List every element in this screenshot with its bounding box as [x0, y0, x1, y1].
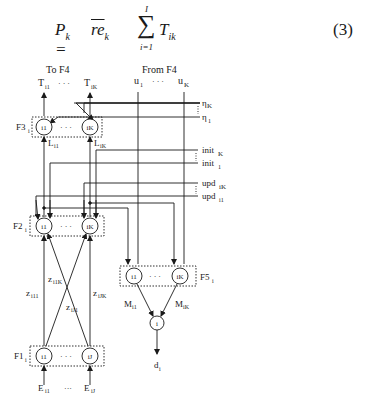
label-initK: init [202, 145, 215, 155]
svg-text:· · ·: · · · [58, 79, 70, 88]
svg-text:i1: i1 [41, 353, 47, 361]
svg-text:iK: iK [183, 304, 190, 310]
label-F5: F5 [200, 272, 210, 282]
svg-text:iK: iK [87, 223, 94, 231]
svg-text:i: i [156, 320, 158, 328]
svg-text:i1: i1 [41, 124, 47, 132]
svg-text:i: i [212, 278, 214, 284]
svg-text:iK: iK [91, 84, 98, 90]
label-upd1: upd [202, 191, 216, 201]
svg-text:iJK: iJK [98, 293, 107, 299]
svg-text:1: 1 [140, 82, 143, 88]
svg-text:· · ·: · · · [60, 352, 72, 361]
svg-text:· · ·: · · · [60, 222, 72, 231]
svg-text:1: 1 [208, 118, 211, 124]
svg-text:· · ·: · · · [149, 272, 161, 281]
svg-text:i: i [28, 128, 30, 134]
z-i1K [46, 234, 86, 346]
label-M-i1: M [124, 299, 132, 309]
label-F3: F3 [16, 122, 26, 132]
svg-text:1: 1 [218, 164, 221, 170]
svg-text:i1: i1 [54, 143, 59, 149]
label-from-F4: From F4 [142, 64, 177, 75]
svg-text:iJ: iJ [91, 388, 96, 394]
svg-text:iK: iK [177, 273, 184, 281]
svg-text:K: K [218, 150, 223, 158]
label-z-iJK: z [93, 288, 97, 298]
label-T: T [38, 77, 44, 88]
label-F1: F1 [14, 351, 24, 361]
label-L-i1: L [48, 138, 54, 148]
svg-text:i1: i1 [131, 273, 137, 281]
label-T-iK: T [84, 77, 90, 88]
arrow-M-i1 [137, 284, 153, 316]
label-E-i1: E [38, 383, 44, 393]
svg-text:i1: i1 [219, 197, 224, 203]
label-z-i11: z [26, 288, 30, 298]
svg-text:· · ·: · · · [152, 77, 164, 86]
label-M-iK: M [175, 299, 183, 309]
label-eta1: η [202, 112, 207, 122]
svg-text:···: ··· [64, 384, 72, 393]
svg-text:i1: i1 [45, 388, 50, 394]
svg-text:iJ1: iJ1 [71, 307, 78, 313]
label-F2: F2 [13, 221, 23, 231]
svg-text:iJ: iJ [88, 353, 93, 361]
svg-text:i11: i11 [31, 293, 38, 299]
label-L-iK: L [94, 138, 100, 148]
line-updK [84, 183, 198, 216]
label-to-F4: To F4 [46, 64, 69, 75]
line-F2-to-F5-iK [90, 203, 174, 264]
svg-text:K: K [184, 81, 189, 89]
arrow-eta1 [50, 117, 200, 123]
label-uK: u [178, 75, 183, 86]
svg-text:iK: iK [100, 143, 107, 149]
label-z-i1K: z [48, 274, 52, 284]
label-E-iJ: E [84, 383, 90, 393]
svg-text:i1: i1 [132, 304, 137, 310]
label-z-iJ1: z [66, 302, 70, 312]
svg-text:i1: i1 [45, 84, 50, 90]
label-u1: u [134, 75, 139, 86]
svg-text:i1K: i1K [53, 279, 63, 285]
svg-text:i1: i1 [41, 223, 47, 231]
svg-text:iK: iK [219, 183, 226, 191]
svg-text:iK: iK [87, 124, 94, 132]
svg-text:i: i [159, 366, 161, 372]
svg-text:K: K [207, 102, 212, 110]
z-iJ1 [48, 234, 88, 346]
svg-text:i: i [25, 227, 27, 233]
line-etaK [84, 103, 200, 113]
label-init1: init [202, 158, 215, 168]
svg-text:· · ·: · · · [60, 123, 72, 132]
label-updK: upd [202, 178, 216, 188]
network-diagram: To F4 From F4 T i1 · · · T iK u 1 · · · … [0, 0, 369, 396]
svg-text:i: i [25, 357, 27, 363]
